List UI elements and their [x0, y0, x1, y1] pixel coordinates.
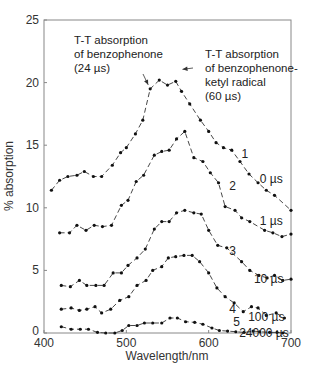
data-point	[192, 156, 195, 159]
data-point	[193, 321, 196, 324]
data-point	[234, 330, 237, 333]
data-point	[168, 149, 171, 152]
data-point	[83, 170, 86, 173]
series-line-4	[61, 255, 284, 318]
data-point	[96, 331, 99, 334]
data-point	[111, 164, 114, 167]
data-point	[200, 212, 203, 215]
data-point	[94, 284, 97, 287]
data-point	[167, 256, 170, 259]
annotation-text: ketyl radical	[205, 76, 266, 88]
series-line-1	[51, 80, 291, 210]
data-point	[265, 189, 268, 192]
data-point	[247, 172, 250, 175]
data-point	[60, 284, 63, 287]
annotation-text: T-T absorption	[205, 48, 279, 60]
y-tick-label: 10	[26, 201, 40, 215]
series-time-label: 0 µs	[260, 172, 283, 186]
data-point	[160, 150, 163, 153]
data-point	[174, 255, 177, 258]
data-point	[180, 90, 183, 93]
data-point	[75, 174, 78, 177]
data-point	[175, 137, 178, 140]
data-point	[188, 102, 191, 105]
data-point	[256, 306, 259, 309]
data-point	[216, 244, 219, 247]
data-point	[151, 321, 154, 324]
data-point	[110, 224, 113, 227]
data-point	[50, 189, 53, 192]
data-point	[226, 330, 229, 333]
data-point	[210, 326, 213, 329]
data-point	[263, 229, 266, 232]
data-point	[248, 269, 251, 272]
data-point	[93, 305, 96, 308]
data-point	[100, 175, 103, 178]
data-point	[142, 174, 145, 177]
data-point	[134, 132, 137, 135]
series-time-label: 100 µs	[248, 310, 284, 324]
series-number-label: 1	[242, 147, 249, 161]
data-point	[118, 299, 121, 302]
data-point	[184, 320, 187, 323]
data-point	[78, 279, 81, 282]
data-point	[85, 284, 88, 287]
data-point	[242, 310, 245, 313]
data-point	[85, 308, 88, 311]
data-point	[112, 271, 115, 274]
data-point	[125, 146, 128, 149]
data-point	[174, 80, 177, 83]
data-point	[135, 324, 138, 327]
data-point	[143, 321, 146, 324]
data-point	[215, 286, 218, 289]
data-point	[222, 146, 225, 149]
data-point	[233, 209, 236, 212]
data-point	[84, 229, 87, 232]
data-point	[60, 308, 63, 311]
annotation-text: (24 µs)	[74, 62, 110, 74]
data-point	[135, 180, 138, 183]
x-tick-label: 400	[34, 336, 54, 350]
data-point	[182, 254, 185, 257]
data-point	[113, 331, 116, 334]
annotation-text: of benzophenone	[74, 48, 163, 60]
data-point	[79, 328, 82, 331]
data-point	[103, 284, 106, 287]
data-point	[60, 325, 63, 328]
data-point	[207, 229, 210, 232]
data-point	[135, 284, 138, 287]
data-point	[168, 220, 171, 223]
data-point	[100, 311, 103, 314]
data-point	[207, 130, 210, 133]
data-point	[144, 279, 147, 282]
data-point	[141, 119, 144, 122]
data-point	[127, 324, 130, 327]
data-point	[198, 260, 201, 263]
data-point	[248, 220, 251, 223]
data-point	[271, 231, 274, 234]
data-point	[93, 224, 96, 227]
data-point	[240, 260, 243, 263]
series-labels: 10 µs21 µs310 µs4100 µs524000 µs	[229, 147, 289, 340]
data-point	[126, 264, 129, 267]
x-axis-title: Wavelength/nm	[126, 349, 209, 363]
x-tick-label: 600	[199, 336, 219, 350]
annotation-text: of benzophenone-	[205, 62, 298, 74]
data-point	[153, 154, 156, 157]
data-point	[120, 204, 123, 207]
data-point	[92, 175, 95, 178]
data-point	[201, 323, 204, 326]
data-point	[58, 231, 61, 234]
data-point	[101, 225, 104, 228]
data-point	[69, 285, 72, 288]
y-tick-label: 20	[26, 76, 40, 90]
data-point	[176, 316, 179, 319]
series-time-label: 10 µs	[254, 272, 284, 286]
data-point	[280, 235, 283, 238]
series-time-label: 1 µs	[260, 214, 283, 228]
data-point	[58, 179, 61, 182]
data-point	[127, 295, 130, 298]
y-tick-label: 15	[26, 138, 40, 152]
annotations: T-T absorptionof benzophenone(24 µs)T-T …	[74, 34, 298, 102]
data-point	[225, 246, 228, 249]
